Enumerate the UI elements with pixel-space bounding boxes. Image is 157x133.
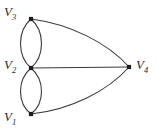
vertex-label-letter-v2: V [4,57,12,72]
vertex-label-letter-v3: V [4,4,12,19]
edge-v2-v4 [31,67,129,68]
edge-layer [21,19,130,114]
graph-canvas [0,0,157,133]
vertex-label-index-v4: 4 [144,65,148,75]
vertex-dot-v1 [29,112,33,116]
vertex-label-v1: V1 [4,110,16,126]
vertex-label-index-v2: 2 [12,65,16,75]
vertex-dot-v4 [127,65,131,69]
edge-v1-v4 [31,67,129,114]
edge-v2-v1-left [21,68,32,114]
edge-v3-v4 [31,19,129,67]
vertex-label-letter-v4: V [136,57,144,72]
vertex-label-letter-v1: V [4,109,12,124]
vertex-label-index-v3: 3 [12,12,16,22]
vertex-label-v2: V2 [4,58,16,74]
edge-v3-v2-right [31,19,42,68]
edge-v2-v1-right [31,68,42,114]
vertex-label-index-v1: 1 [12,117,16,127]
vertex-label-v3: V3 [4,5,16,21]
vertex-dot-v2 [29,66,33,70]
edge-v3-v2-left [21,19,32,68]
vertex-label-v4: V4 [136,58,148,74]
vertex-dot-v3 [29,17,33,21]
graph-figure: V3 V2 V1 V4 [0,0,157,133]
